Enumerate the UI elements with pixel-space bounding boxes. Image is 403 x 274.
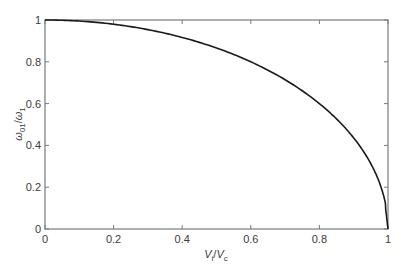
y-tick-label: 0.8 <box>26 56 41 68</box>
x-tick-label: 0.4 <box>175 233 190 245</box>
x-tick-label: 0 <box>42 233 48 245</box>
x-tick-label: 0.6 <box>243 233 258 245</box>
plot-frame <box>45 20 388 229</box>
y-tick-label: 0.6 <box>26 98 41 110</box>
y-tick-label: 0 <box>35 223 41 235</box>
x-tick-label: 1 <box>385 233 391 245</box>
y-tick-label: 1 <box>35 14 41 26</box>
x-tick-label: 0.2 <box>106 233 121 245</box>
y-axis-ticks: 00.20.40.60.81 <box>26 14 388 235</box>
y-tick-label: 0.4 <box>26 139 41 151</box>
x-axis-label: Vi/Vc <box>204 248 228 263</box>
data-series-line <box>45 20 388 229</box>
x-tick-label: 0.8 <box>312 233 327 245</box>
y-tick-label: 0.2 <box>26 181 41 193</box>
line-chart: 00.20.40.60.81 00.20.40.60.81 Vi/Vc ω01/… <box>0 0 403 274</box>
y-axis-label: ω01/ω1 <box>12 107 27 141</box>
x-axis-ticks: 00.20.40.60.81 <box>42 20 391 245</box>
